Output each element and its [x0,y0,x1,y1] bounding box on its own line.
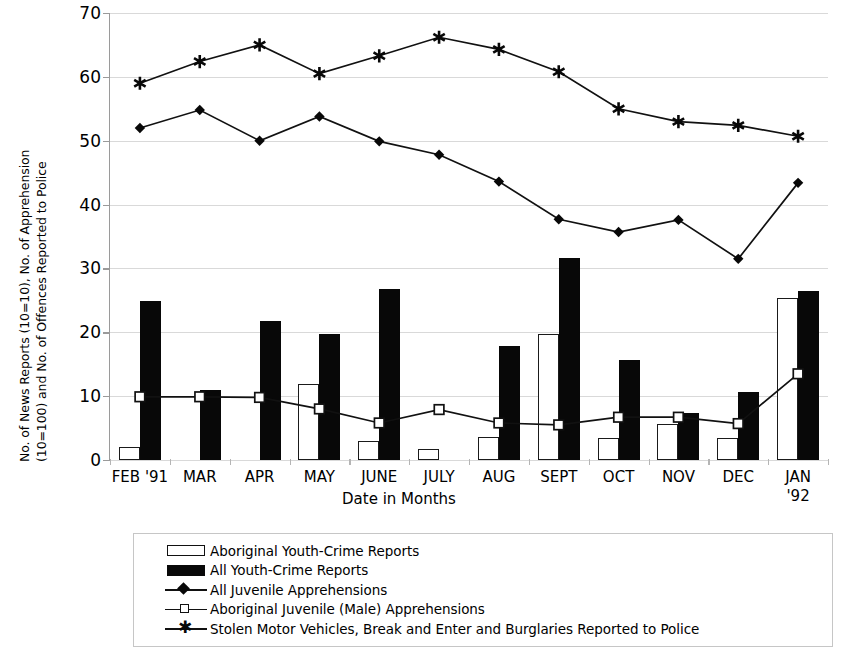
legend-item-label: All Juvenile Apprehensions [210,582,387,598]
open-square-marker-icon [180,604,189,613]
legend-item[interactable]: ✱Stolen Motor Vehicles, Break and Enter … [134,619,832,639]
line-series [134,31,804,143]
solid-rect-swatch-icon [167,565,205,576]
open-rect-key [161,543,209,559]
marker-open-square [793,369,803,379]
x-tick-label: AUG [482,468,515,487]
line-diamond-key [161,582,209,598]
legend-item-label: Aboriginal Youth-Crime Reports [210,543,419,559]
y-axis-title-line-2: (10=100) and No. of Offences Reported to… [33,161,50,462]
chart-legend: Aboriginal Youth-Crime ReportsAll Youth-… [133,533,833,647]
plot-area: 010203040506070 [110,13,828,460]
y-axis-title-line-1: No. of News Reports (10=10), No. of Appr… [16,150,33,462]
y-tick-mark [103,396,110,397]
x-tick-label: APR [245,468,275,487]
marker-diamond [314,111,324,121]
marker-diamond [554,214,564,224]
marker-star [254,38,265,51]
marker-open-square [674,412,684,422]
y-tick-label: 20 [79,322,101,342]
marker-diamond [135,123,145,133]
x-tick-label: JULY [424,468,455,487]
x-tick-label: SEPT [540,468,577,487]
x-tick-label: JUNE [361,468,397,487]
y-tick-label: 50 [79,131,101,151]
legend-item-label: All Youth-Crime Reports [210,562,368,578]
y-tick-label: 10 [79,386,101,406]
x-tick-label: OCT [603,468,634,487]
line-open-square-key [161,601,209,617]
legend-item[interactable]: Aboriginal Juvenile (Male) Apprehensions [134,600,832,620]
marker-star [553,65,564,78]
diamond-marker-icon [177,582,190,595]
x-tick-label: MAR [183,468,217,487]
marker-open-square [255,393,265,403]
legend-item-label: Stolen Motor Vehicles, Break and Enter a… [210,621,699,637]
line-series [135,369,803,430]
y-tick-label: 70 [79,3,101,23]
marker-open-square [195,392,205,402]
marker-open-square [494,418,504,428]
y-tick-mark [103,332,110,333]
x-tick-label: JAN'92 [785,468,811,506]
marker-open-square [614,412,624,422]
marker-open-square [434,405,444,415]
y-tick-mark [103,205,110,206]
solid-rect-key [161,562,209,578]
marker-diamond [254,136,264,146]
line-series [135,105,804,264]
marker-open-square [315,404,325,414]
marker-star [374,49,385,62]
marker-diamond [613,227,623,237]
marker-star [314,67,325,80]
series-polyline [140,374,798,425]
y-tick-label: 40 [79,195,101,215]
legend-item[interactable]: Aboriginal Youth-Crime Reports [134,541,832,561]
marker-open-square [733,419,743,429]
x-tick-label: NOV [662,468,695,487]
marker-open-square [135,392,145,402]
marker-diamond [494,176,504,186]
marker-diamond [195,105,205,115]
marker-open-square [374,418,384,428]
legend-item[interactable]: All Juvenile Apprehensions [134,580,832,600]
marker-diamond [434,150,444,160]
open-rect-swatch-icon [167,545,205,556]
x-tick-mark [828,459,829,465]
y-tick-mark [103,77,110,78]
line-series-layer [110,13,828,460]
y-tick-label: 0 [90,450,101,470]
marker-diamond [374,136,384,146]
y-tick-label: 30 [79,258,101,278]
x-axis-title: Date in Months [342,490,456,508]
y-tick-label: 60 [79,67,101,87]
y-tick-mark [103,13,110,14]
x-tick-label: MAY [304,468,335,487]
y-axis-title: No. of News Reports (10=10), No. of Appr… [0,0,52,470]
marker-star [134,77,145,90]
marker-diamond [673,215,683,225]
series-polyline [140,110,798,259]
y-tick-mark [103,268,110,269]
legend-item-label: Aboriginal Juvenile (Male) Apprehensions [210,601,485,617]
x-tick-label: DEC [722,468,754,487]
y-tick-mark [103,141,110,142]
chart-root: No. of News Reports (10=10), No. of Appr… [0,0,850,660]
marker-star [194,55,205,68]
marker-open-square [554,420,564,430]
line-star-key: ✱ [161,621,209,637]
series-polyline [140,37,798,136]
legend-item[interactable]: All Youth-Crime Reports [134,561,832,581]
y-tick-mark [103,460,110,461]
x-tick-label: FEB '91 [112,468,168,487]
star-marker-icon: ✱ [177,619,193,636]
